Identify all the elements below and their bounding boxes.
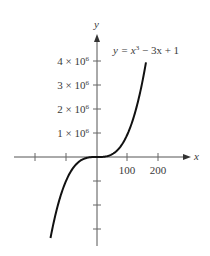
- x-axis-arrow-icon: [183, 154, 191, 160]
- y-tick-label-1e6: 1 × 106: [57, 127, 89, 139]
- y-tick-label-3e6: 3 × 106: [57, 79, 89, 91]
- svg-text:4 × 106: 4 × 106: [57, 55, 89, 67]
- y-axis-label: y: [93, 18, 99, 30]
- svg-text:3 × 106: 3 × 106: [57, 79, 89, 91]
- y-axis-arrow-icon: [94, 34, 100, 42]
- x-tick-label-200: 200: [150, 164, 167, 176]
- svg-text:1 × 106: 1 × 106: [57, 127, 89, 139]
- y-tick-label-4e6: 4 × 106: [57, 55, 89, 67]
- y-tick-label-2e6: 2 × 106: [57, 103, 89, 115]
- equation-label: y = x3 − 3x + 1: [112, 44, 179, 56]
- x-axis-label: x: [193, 150, 199, 162]
- x-tick-label-100: 100: [119, 164, 136, 176]
- svg-text:2 × 106: 2 × 106: [57, 103, 89, 115]
- cubic-function-graph: x y 100 200 4 × 106 3 × 106 2 × 106 1 × …: [0, 0, 210, 256]
